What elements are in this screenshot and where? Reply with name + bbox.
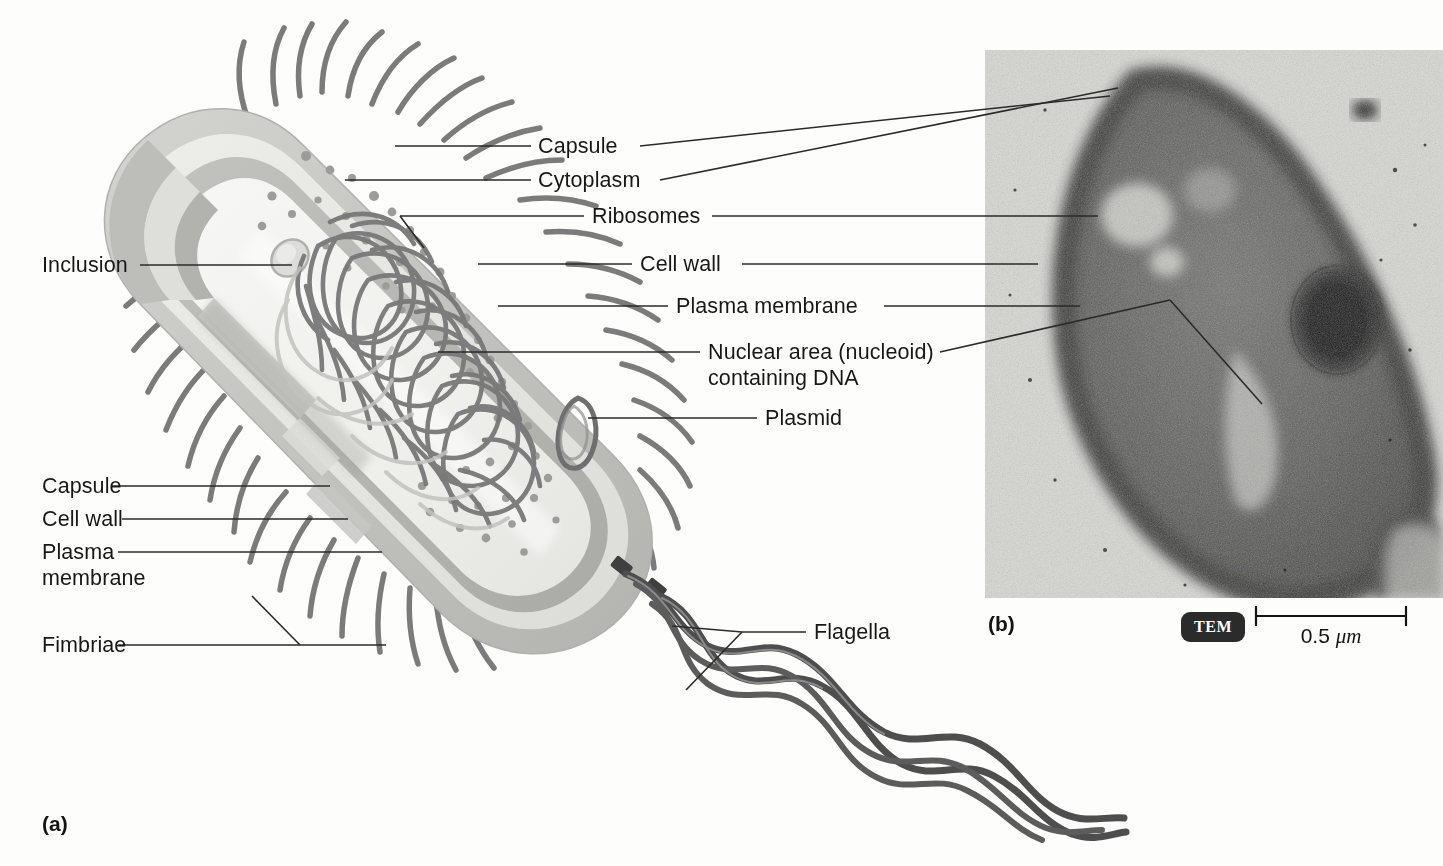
scale-bar-label: 0.5 μm [1255,624,1407,649]
scale-value: 0.5 [1301,624,1336,647]
bacterial-cell-figure: Capsule Cytoplasm Ribosomes Cell wall Pl… [0,0,1443,866]
scale-unit: μm [1336,624,1362,648]
scale-bar [0,0,1443,866]
